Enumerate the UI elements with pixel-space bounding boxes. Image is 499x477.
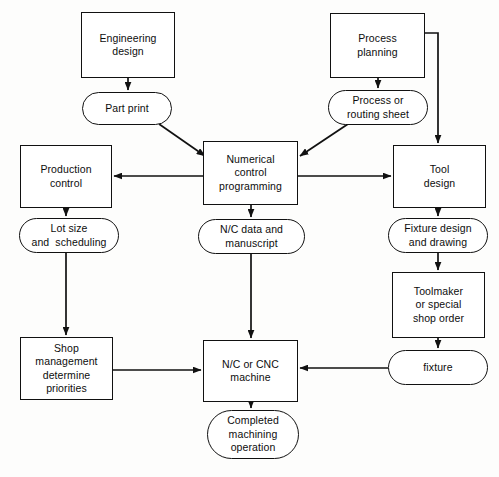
node-label-completed-machining-operation: Completedmachiningoperation <box>223 414 283 455</box>
node-label-tool-design: Tooldesign <box>420 163 460 190</box>
node-lot-size-and-scheduling: Lot sizeand scheduling <box>19 218 119 253</box>
node-label-part-print: Part print <box>101 102 153 116</box>
node-shop-management-determine-priorities: Shopmanagementdeterminepriorities <box>20 337 113 400</box>
node-label-engineering-design: Engineeringdesign <box>95 32 160 59</box>
node-tool-design: Tooldesign <box>393 145 486 208</box>
node-label-fixture: fixture <box>419 361 456 375</box>
node-completed-machining-operation: Completedmachiningoperation <box>207 410 299 459</box>
node-label-shop-management-determine-priorities: Shopmanagementdeterminepriorities <box>31 342 101 396</box>
edge-process-or-routing-sheet-to-numerical-control-programming <box>300 124 348 156</box>
node-label-process-or-routing-sheet: Process orrouting sheet <box>343 94 413 121</box>
node-label-toolmaker-or-special-shop-order: Toolmakeror specialshop order <box>409 285 468 326</box>
node-label-production-control: Productioncontrol <box>36 163 95 190</box>
node-part-print: Part print <box>82 92 172 125</box>
edge-process-planning-to-tool-design <box>425 33 438 143</box>
node-label-process-planning: Processplanning <box>353 32 402 59</box>
node-production-control: Productioncontrol <box>20 145 112 208</box>
node-numerical-control-programming: Numericalcontrolprogramming <box>203 141 298 205</box>
node-process-or-routing-sheet: Process orrouting sheet <box>328 90 428 125</box>
node-label-nc-data-and-manuscript: N/C data andmanuscript <box>216 223 287 250</box>
node-toolmaker-or-special-shop-order: Toolmakeror specialshop order <box>392 272 485 338</box>
node-label-nc-or-cnc-machine: N/C or CNCmachine <box>218 358 283 385</box>
node-engineering-design: Engineeringdesign <box>81 12 175 78</box>
node-label-numerical-control-programming: Numericalcontrolprogramming <box>215 153 286 194</box>
node-fixture: fixture <box>388 350 488 385</box>
node-nc-or-cnc-machine: N/C or CNCmachine <box>203 340 298 402</box>
node-process-planning: Processplanning <box>330 13 425 78</box>
node-label-fixture-design-and-drawing: Fixture designand drawing <box>400 222 475 249</box>
node-fixture-design-and-drawing: Fixture designand drawing <box>388 218 488 253</box>
edge-part-print-to-numerical-control-programming <box>159 124 205 156</box>
node-nc-data-and-manuscript: N/C data andmanuscript <box>198 219 305 254</box>
node-label-lot-size-and-scheduling: Lot sizeand scheduling <box>27 222 110 249</box>
flowchart-canvas: EngineeringdesignProcessplanningPart pri… <box>0 0 499 477</box>
